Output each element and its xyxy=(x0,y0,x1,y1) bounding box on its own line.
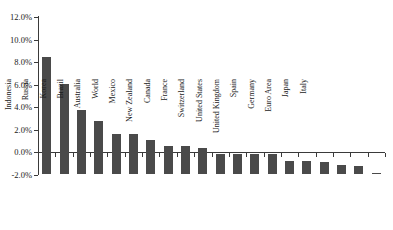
bar-slot xyxy=(316,39,333,174)
x-axis-category-label: Italy xyxy=(300,79,308,159)
x-axis-tick-mark xyxy=(38,153,39,157)
x-axis-category-label: Mexico xyxy=(109,79,117,159)
x-axis-category-label: World xyxy=(92,79,100,159)
bar-slot xyxy=(350,39,367,174)
x-axis-category-label: Euro Area xyxy=(265,79,273,159)
y-axis-tick-label: 8.0% xyxy=(0,58,32,67)
x-axis-category-label: United Kingdom xyxy=(213,79,221,159)
x-axis-category-label: New Zealand xyxy=(126,79,134,159)
bar xyxy=(320,162,329,174)
chart-title xyxy=(0,0,393,1)
x-axis-category-label: France xyxy=(161,79,169,159)
y-axis-tick-label: -2.0% xyxy=(0,171,32,180)
bar xyxy=(337,165,346,174)
x-axis-category-label: Australia xyxy=(74,79,82,159)
x-axis-category-label: Korea xyxy=(40,79,48,159)
bar xyxy=(285,161,294,175)
x-axis-tick-mark xyxy=(385,153,386,157)
y-axis-tick-mark xyxy=(34,175,38,176)
x-axis-category-label: Spain xyxy=(230,79,238,159)
x-axis-tick-mark xyxy=(333,153,334,157)
x-axis-category-label: Germany xyxy=(248,79,256,159)
bar xyxy=(302,161,311,175)
bar-slot xyxy=(368,39,385,174)
x-axis-tick-mark xyxy=(316,153,317,157)
x-axis-category-label: Canada xyxy=(144,79,152,159)
x-axis-category-label: Switzerland xyxy=(178,79,186,159)
bar-chart-figure: 12.0%10.0%8.0%6.0%4.0%2.0%0.0%-2.0% Chin… xyxy=(0,0,393,230)
x-axis-category-label: Japan xyxy=(282,79,290,159)
x-axis-tick-mark xyxy=(368,153,369,157)
bar-slot xyxy=(333,39,350,174)
bar xyxy=(372,173,381,174)
x-axis-tick-mark xyxy=(142,153,143,157)
bar xyxy=(354,166,363,174)
x-axis-category-label: United States xyxy=(196,79,204,159)
x-axis-category-label: Russia xyxy=(22,79,30,159)
x-axis-tick-mark xyxy=(350,153,351,157)
x-axis-category-label: Indonesia xyxy=(5,79,13,159)
x-axis-tick-mark xyxy=(194,153,195,157)
y-axis-tick-label: 10.0% xyxy=(0,36,32,45)
y-axis-tick-label: 12.0% xyxy=(0,13,32,22)
x-axis-category-label: Brazil xyxy=(57,79,65,159)
x-axis-tick-mark xyxy=(90,153,91,157)
